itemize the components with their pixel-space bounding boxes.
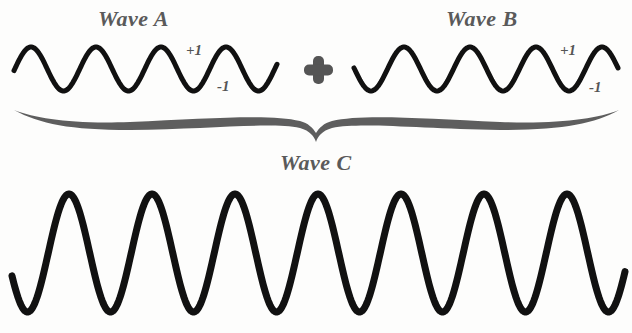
wave-a-min-label: -1 [217, 78, 230, 95]
wave-a-label: Wave A [98, 6, 169, 32]
curly-brace-icon [14, 110, 619, 142]
wave-b-curve [354, 47, 618, 91]
plus-icon [304, 56, 333, 84]
interference-diagram: Wave A Wave B Wave C +1 -1 +1 -1 [0, 0, 632, 333]
wave-b-min-label: -1 [589, 79, 602, 96]
wave-b-max-label: +1 [560, 42, 576, 59]
wave-c-label: Wave C [280, 150, 352, 176]
wave-b-label: Wave B [446, 6, 518, 32]
wave-a-curve [14, 47, 277, 91]
wave-c-curve [12, 194, 625, 312]
wave-a-max-label: +1 [186, 42, 202, 59]
